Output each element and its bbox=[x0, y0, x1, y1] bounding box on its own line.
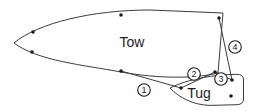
diagram-canvas: 1234 Tow Tug bbox=[0, 0, 253, 111]
bitt-dot bbox=[229, 94, 233, 98]
bitt-dot bbox=[119, 13, 123, 17]
bitt-dot bbox=[213, 70, 217, 74]
bitt-dot bbox=[179, 86, 183, 90]
tow-label: Tow bbox=[120, 34, 146, 50]
tug-and-tow-diagram: 1234 Tow Tug bbox=[0, 0, 253, 111]
line-number-text-2: 2 bbox=[191, 69, 196, 79]
line-number-text-4: 4 bbox=[232, 42, 237, 52]
bitt-dot bbox=[230, 78, 234, 82]
line-number-text-3: 3 bbox=[218, 74, 223, 84]
tug-label: Tug bbox=[187, 85, 211, 101]
bitt-dot bbox=[31, 30, 35, 34]
line-number-text-1: 1 bbox=[141, 85, 146, 95]
tow-hull-outline bbox=[14, 10, 223, 77]
bitt-dot bbox=[217, 16, 221, 20]
bitt-dot bbox=[30, 50, 34, 54]
tow-line-1 bbox=[121, 71, 181, 88]
bitt-dot bbox=[119, 69, 123, 73]
